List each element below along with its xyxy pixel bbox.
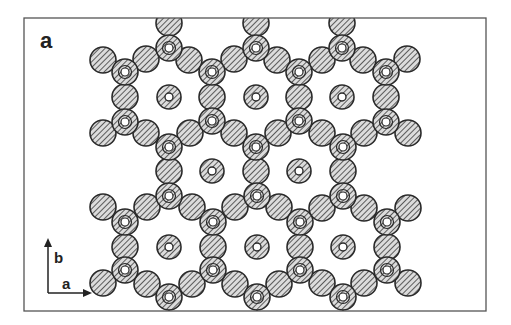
isolated-atom: [244, 85, 268, 109]
trinodal-atom: [373, 109, 399, 135]
trinodal-atom: [244, 183, 270, 209]
trinodal-atom: [330, 183, 356, 209]
trinodal-atom: [199, 108, 225, 134]
b-axis-label: b: [54, 249, 63, 266]
panel-label: a: [40, 28, 53, 53]
trinodal-atom: [287, 209, 313, 235]
bridging-atom: [199, 84, 225, 110]
isolated-atom: [287, 159, 311, 183]
trinodal-atom: [373, 59, 399, 85]
bridging-atom: [112, 84, 138, 110]
trinodal-atom: [156, 35, 182, 61]
trinodal-atom: [156, 183, 182, 209]
trinodal-atom: [374, 257, 400, 283]
bridging-atom: [374, 234, 400, 260]
a-axis-label: a: [62, 275, 71, 292]
trinodal-atom: [243, 35, 269, 61]
bridging-atom: [330, 158, 356, 184]
trinodal-atom: [112, 109, 138, 135]
trinodal-atom: [156, 284, 182, 310]
trinodal-atom: [243, 134, 269, 160]
trinodal-atom: [286, 108, 312, 134]
isolated-atom: [200, 159, 224, 183]
bridging-atom: [286, 84, 312, 110]
trinodal-atom: [200, 257, 226, 283]
trinodal-atom: [156, 134, 182, 160]
bridging-atom: [156, 158, 182, 184]
trinodal-atom: [286, 59, 312, 85]
isolated-atom: [157, 235, 181, 259]
bridging-atom: [112, 234, 138, 260]
bridging-atom: [200, 234, 226, 260]
trinodal-atom: [374, 209, 400, 235]
trinodal-atom: [112, 59, 138, 85]
bridging-atom: [373, 84, 399, 110]
trinodal-atom: [112, 257, 138, 283]
trinodal-atom: [330, 134, 356, 160]
isolated-atom: [330, 85, 354, 109]
trinodal-atom: [330, 284, 356, 310]
crystal-structure-figure: a b a: [0, 0, 511, 325]
trinodal-atom: [199, 59, 225, 85]
isolated-atom: [331, 235, 355, 259]
trinodal-atom: [112, 209, 138, 235]
trinodal-atom: [244, 284, 270, 310]
trinodal-atom: [329, 35, 355, 61]
bridging-atom: [90, 194, 116, 220]
isolated-atom: [245, 235, 269, 259]
isolated-atom: [157, 85, 181, 109]
bridging-atom: [287, 234, 313, 260]
bridging-atom: [243, 158, 269, 184]
trinodal-atom: [200, 209, 226, 235]
trinodal-atom: [287, 257, 313, 283]
